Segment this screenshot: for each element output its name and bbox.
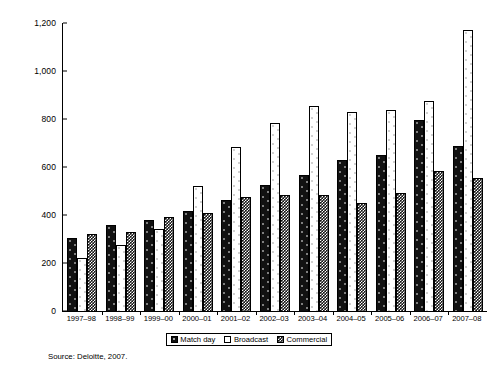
x-axis-label: 2001–02: [216, 314, 255, 323]
bar: [319, 195, 329, 311]
bar-group: [140, 23, 179, 311]
legend-swatch-icon: [277, 336, 284, 343]
chart-container: 02004006008001,0001,200 1997–981998–9919…: [0, 0, 498, 373]
bar: [106, 225, 116, 311]
bar: [280, 195, 290, 311]
bar: [221, 200, 231, 311]
y-axis-tick-label: 1,200: [34, 18, 63, 28]
bar: [183, 211, 193, 311]
bar: [309, 106, 319, 311]
bar-group: [333, 23, 372, 311]
x-axis-label: 2000–01: [178, 314, 217, 323]
bar: [260, 185, 270, 311]
bar-group: [102, 23, 141, 311]
bar-group: [448, 23, 487, 311]
legend-item[interactable]: Broadcast: [224, 335, 268, 344]
bar-group: [410, 23, 449, 311]
bar: [67, 238, 77, 311]
x-axis-label: 1999–00: [139, 314, 178, 323]
legend-label: Commercial: [287, 335, 328, 344]
y-axis-tick-label: 200: [42, 258, 63, 268]
legend-box: Match dayBroadcastCommercial: [166, 333, 332, 346]
bar-group: [179, 23, 218, 311]
x-axis-label: 2006–07: [409, 314, 448, 323]
bar: [414, 120, 424, 311]
bar: [77, 258, 87, 311]
bar-group: [294, 23, 333, 311]
bar: [144, 220, 154, 311]
bar-groups: [63, 23, 487, 311]
bar: [203, 213, 213, 311]
bar: [299, 175, 309, 311]
x-axis-label: 1997–98: [62, 314, 101, 323]
chart-legend: Match dayBroadcastCommercial: [0, 333, 498, 346]
bar-group: [217, 23, 256, 311]
x-axis-labels: 1997–981998–991999–002000–012001–022002–…: [62, 314, 486, 323]
bar: [337, 160, 347, 311]
bar: [164, 217, 174, 311]
bar: [116, 245, 126, 311]
bar-group: [371, 23, 410, 311]
y-axis-tick-label: 800: [42, 114, 63, 124]
bar: [396, 193, 406, 311]
y-axis-tick-label: 1,000: [34, 66, 63, 76]
legend-swatch-icon: [171, 336, 178, 343]
bar: [376, 155, 386, 311]
bar: [87, 234, 97, 311]
bar-group: [63, 23, 102, 311]
bar: [386, 110, 396, 311]
bar: [231, 147, 241, 311]
bar: [434, 171, 444, 311]
legend-label: Broadcast: [234, 335, 268, 344]
plot-area: 02004006008001,0001,200: [62, 23, 487, 312]
source-note: Source: Deloitte, 2007.: [48, 352, 127, 361]
x-axis-label: 2002–03: [255, 314, 294, 323]
bar: [347, 112, 357, 311]
bar: [126, 232, 136, 311]
x-axis-label: 2004–05: [332, 314, 371, 323]
legend-item[interactable]: Commercial: [277, 335, 327, 344]
x-axis-label: 2003–04: [293, 314, 332, 323]
bar: [473, 178, 483, 311]
x-axis-label: 2005–06: [370, 314, 409, 323]
legend-label: Match day: [180, 335, 215, 344]
bar: [270, 123, 280, 311]
y-axis-tick-label: 400: [42, 210, 63, 220]
bar: [463, 30, 473, 311]
bar: [154, 229, 164, 311]
bar: [424, 101, 434, 311]
bar: [241, 197, 251, 311]
bar: [453, 146, 463, 311]
x-axis-label: 2007–08: [447, 314, 486, 323]
bar: [357, 203, 367, 311]
y-axis-tick-label: 600: [42, 162, 63, 172]
bar: [193, 186, 203, 311]
legend-swatch-icon: [224, 336, 231, 343]
legend-item[interactable]: Match day: [171, 335, 216, 344]
bar-group: [256, 23, 295, 311]
x-axis-label: 1998–99: [101, 314, 140, 323]
